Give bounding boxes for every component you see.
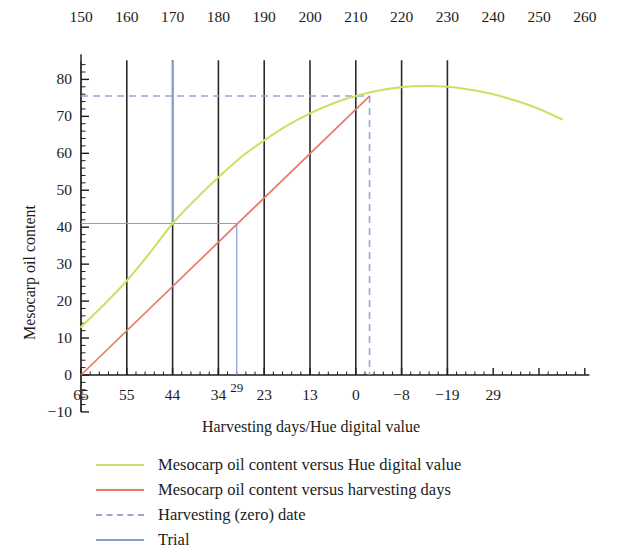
legend-swatch-1 [96, 459, 144, 471]
top-tick-label: 190 [239, 9, 289, 25]
legend-label: Mesocarp oil content versus Hue digital … [158, 455, 461, 475]
bottom-tick-label: −19 [422, 387, 472, 403]
top-tick-label: 150 [56, 9, 106, 25]
legend-label: Mesocarp oil content versus harvesting d… [158, 480, 451, 500]
top-tick-label: 260 [560, 9, 610, 25]
bottom-tick-label: 44 [148, 387, 198, 403]
top-tick-label: 170 [148, 9, 198, 25]
chart-legend: Mesocarp oil content versus Hue digital … [96, 452, 566, 552]
top-tick-label: 200 [285, 9, 335, 25]
left-tick-label: 50 [20, 182, 72, 198]
bottom-tick-label: 65 [56, 387, 106, 403]
top-tick-label: 220 [377, 9, 427, 25]
legend-swatch-4 [96, 534, 144, 546]
legend-label: Trial [158, 530, 190, 550]
left-tick-label: 70 [20, 108, 72, 124]
top-tick-label: 160 [102, 9, 152, 25]
series-line-hue [81, 86, 562, 327]
vertical-reference-lines [127, 60, 448, 375]
x-axis-title: Harvesting days/Hue digital value [161, 419, 461, 435]
top-tick-label: 250 [514, 9, 564, 25]
legend-row: Mesocarp oil content versus Hue digital … [96, 452, 566, 477]
top-tick-label: 230 [422, 9, 472, 25]
bottom-tick-label: −8 [377, 387, 427, 403]
bottom-tick-label: 0 [331, 387, 381, 403]
axis-ticks [81, 54, 585, 412]
legend-label: Harvesting (zero) date [158, 505, 306, 525]
axis-lines [81, 60, 589, 412]
left-tick-label: 60 [20, 145, 72, 161]
chart-figure: 150160170180190200210220230240250260 807… [0, 0, 622, 556]
y-axis-title: Mesocarp oil content [22, 205, 38, 340]
legend-swatch-2 [96, 484, 144, 496]
legend-row: Harvesting (zero) date [96, 502, 566, 527]
legend-row: Mesocarp oil content versus harvesting d… [96, 477, 566, 502]
legend-swatch-3 [96, 509, 144, 521]
bottom-tick-label: 29 [468, 387, 518, 403]
series-line-harvesting-days [81, 96, 370, 375]
bottom-tick-label: 55 [102, 387, 152, 403]
top-tick-label: 210 [331, 9, 381, 25]
legend-row: Trial [96, 527, 566, 552]
top-tick-label: 240 [468, 9, 518, 25]
left-tick-label: −10 [20, 404, 72, 420]
bottom-tick-label: 13 [285, 387, 335, 403]
top-tick-label: 180 [193, 9, 243, 25]
data-series [81, 61, 562, 375]
bottom-tick-label: 23 [239, 387, 289, 403]
left-tick-label: 0 [20, 367, 72, 383]
left-tick-label: 80 [20, 71, 72, 87]
